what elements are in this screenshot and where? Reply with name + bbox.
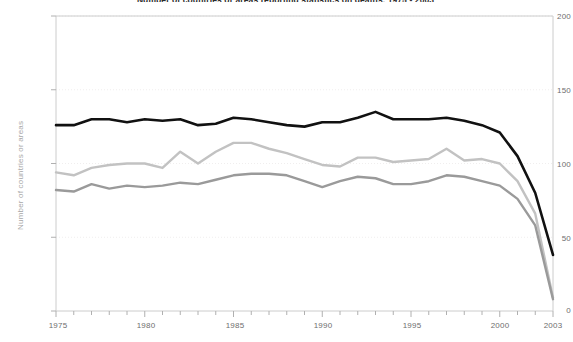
x-axis-ticks <box>56 311 553 317</box>
line-series-black-upper <box>56 112 553 255</box>
line-series-medium-gray-lower <box>56 174 553 299</box>
data-series-layer <box>56 112 553 299</box>
y-axis-ticks <box>51 16 56 311</box>
line-series-light-gray-middle <box>56 143 553 298</box>
